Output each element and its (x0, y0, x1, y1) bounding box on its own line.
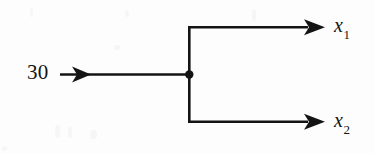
outflow-label-x2-variable: x (334, 109, 343, 131)
outflow-label-x2-subscript: 2 (343, 122, 350, 137)
inflow-label: 30 (27, 62, 48, 83)
outflow-label-x2: x2 (334, 110, 349, 134)
flow-diagram-figure: 30 x1 x2 (0, 0, 375, 153)
diagram-canvas (0, 0, 375, 153)
outflow-label-x1: x1 (334, 15, 349, 39)
outflow-label-x1-variable: x (334, 14, 343, 36)
outflow-label-x1-subscript: 1 (343, 27, 350, 42)
split-node (185, 70, 193, 78)
